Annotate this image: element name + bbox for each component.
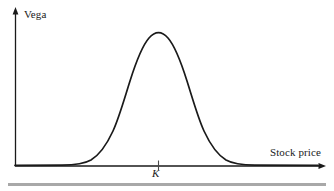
- strike-price-tick-label: K: [152, 168, 159, 179]
- chart-plot-area: [0, 0, 334, 191]
- x-axis-arrowhead-icon: [319, 163, 327, 169]
- y-axis-label: Vega: [24, 9, 46, 20]
- vega-chart-figure: Vega Stock price K: [0, 0, 334, 191]
- y-axis-arrowhead-icon: [13, 7, 19, 15]
- bottom-divider-rule: [8, 183, 326, 186]
- x-axis-label: Stock price: [270, 147, 321, 158]
